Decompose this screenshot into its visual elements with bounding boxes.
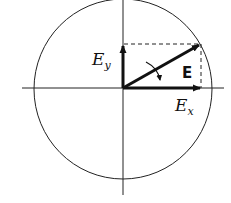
polarization-diagram: Ey Ex E — [0, 0, 231, 203]
diagram-canvas: Ey Ex E — [0, 0, 231, 203]
ex-label: Ex — [174, 95, 194, 118]
e-vector-label: E — [182, 64, 192, 82]
ey-label: Ey — [91, 49, 111, 72]
